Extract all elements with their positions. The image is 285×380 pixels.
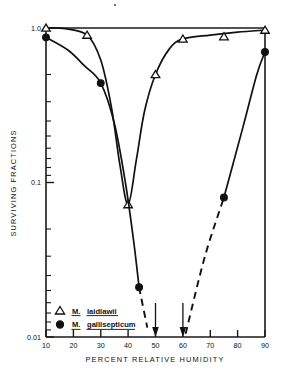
x-tick-label-7: 80 bbox=[234, 341, 242, 350]
gallisepticum-curve-dashed-right bbox=[186, 197, 224, 333]
legend-species-1: gallisepticum bbox=[87, 320, 136, 329]
gallisepticum-point-4 bbox=[262, 49, 269, 56]
y-tick-label-0: 1.0 bbox=[31, 24, 41, 33]
x-tick-label-3: 40 bbox=[124, 341, 132, 350]
arrow-marker-50 bbox=[152, 303, 159, 337]
gallisepticum-point-1 bbox=[97, 80, 104, 87]
gallisepticum-curve-solid-left bbox=[46, 37, 139, 287]
y-axis-ticks bbox=[46, 28, 54, 337]
x-tick-label-1: 20 bbox=[69, 341, 77, 350]
x-tick-label-2: 30 bbox=[97, 341, 105, 350]
x-tick-label-0: 10 bbox=[42, 341, 50, 350]
gallisepticum-curve-solid-right bbox=[224, 52, 265, 198]
legend-genus-0: M. bbox=[72, 307, 80, 316]
x-tick-label-6: 70 bbox=[206, 341, 214, 350]
gallisepticum-point-3 bbox=[221, 194, 228, 201]
x-tick-label-5: 60 bbox=[179, 341, 187, 350]
figure-container: 1.0 0.1 0.01 SURVIVING FRACTIONS 10 20 3… bbox=[0, 0, 285, 380]
survival-vs-humidity-chart: 1.0 0.1 0.01 SURVIVING FRACTIONS 10 20 3… bbox=[0, 0, 285, 380]
gallisepticum-point-2 bbox=[136, 284, 143, 291]
laidlawii-point-3 bbox=[151, 71, 160, 78]
legend-filled-circle-marker bbox=[56, 321, 63, 328]
chart-legend: M. laidlawii M. gallisepticum bbox=[55, 307, 135, 330]
stray-speck bbox=[114, 4, 116, 6]
x-tick-label-4: 50 bbox=[152, 341, 160, 350]
series-laidlawii bbox=[42, 24, 270, 208]
x-axis-title: PERCENT RELATIVE HUMIDITY bbox=[86, 355, 225, 364]
legend-species-0: laidlawii bbox=[87, 307, 117, 316]
gallisepticum-curve-dashed-left bbox=[139, 287, 147, 327]
x-tick-label-8: 90 bbox=[261, 341, 269, 350]
y-tick-label-1: 0.1 bbox=[31, 178, 41, 187]
series-gallisepticum bbox=[43, 34, 269, 334]
legend-open-triangle-marker bbox=[55, 307, 64, 315]
laidlawii-curve bbox=[46, 28, 265, 205]
y-axis-title: SURVIVING FRACTIONS bbox=[9, 129, 18, 236]
legend-genus-1: M. bbox=[72, 320, 80, 329]
gallisepticum-point-0 bbox=[43, 34, 50, 41]
y-tick-label-2: 0.01 bbox=[27, 333, 41, 342]
